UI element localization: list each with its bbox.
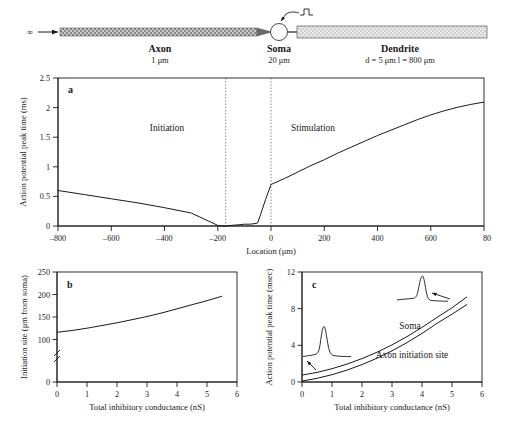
panel-a-x-axis: –800 –600 –400 –200 0 200 400 600 80 Loc… [49, 226, 491, 256]
panel-b-xlabel: Total inhibitory conductance (nS) [89, 402, 205, 412]
panel-c-ytick-12: 12 [287, 268, 295, 277]
panel-c-xtick-0: 0 [300, 390, 304, 399]
panel-a-xtick--800: –800 [49, 234, 66, 243]
axon-hillock-taper [257, 28, 272, 36]
electrode-arrow-icon [281, 12, 299, 21]
panel-c-ytick-0: 0 [291, 378, 295, 387]
panel-a-xtick--600: –600 [102, 234, 119, 243]
panel-c: c 12 8 4 0 Action potential peak time (m… [264, 268, 484, 412]
panel-c-inset-arrow-soma [432, 293, 450, 299]
panel-b-xtick-1: 1 [85, 390, 89, 399]
square-pulse-icon [300, 9, 313, 15]
panel-c-xtick-5: 5 [450, 390, 454, 399]
axon-diameter-label: 1 μm [151, 56, 169, 65]
panel-b-xtick-0: 0 [55, 390, 59, 399]
panel-c-xtick-3: 3 [390, 390, 394, 399]
panel-a-ytick-1.5: 1.5 [40, 133, 50, 142]
panel-b-ylabel: Initiation site (μm from soma) [19, 275, 29, 379]
panel-b-ytick-150: 150 [38, 313, 50, 322]
panel-b: b 250 200 150 100 0 Initiation site (μm … [19, 268, 239, 412]
panel-a-xtick-600: 600 [425, 234, 437, 243]
panel-a-xtick--200: –200 [209, 234, 226, 243]
panel-b-xtick-2: 2 [115, 390, 119, 399]
panel-b-ytick-100: 100 [38, 336, 50, 345]
panel-a-ytick-0: 0 [46, 222, 50, 231]
panel-a-letter: a [68, 84, 73, 95]
panel-c-plot-frame [302, 272, 482, 382]
panel-b-ytick-200: 200 [38, 291, 50, 300]
panel-c-label-axon-initiation-site: Axon initiation site [376, 350, 448, 360]
panel-b-curve [57, 296, 222, 332]
panel-c-letter: c [312, 279, 317, 290]
panel-c-xtick-4: 4 [420, 390, 424, 399]
dendrite-dimensions-label: d = 5 μm l = 800 μm [365, 56, 435, 65]
panel-a-xtick--400: –400 [155, 234, 172, 243]
panel-a-ytick-2.5: 2.5 [40, 74, 50, 83]
panel-b-letter: b [67, 279, 73, 290]
panel-c-label-soma: Soma [399, 321, 421, 331]
panel-a-annotation-stimulation: Stimulation [291, 123, 335, 133]
soma-label: Soma [267, 43, 291, 54]
panel-a-ytick-1: 1 [46, 163, 50, 172]
figure-svg: ∞ Axon 1 μm Soma 20 μm Dendrite d = 5 μm… [0, 0, 505, 429]
panel-c-inset-arrow-axon [307, 361, 316, 370]
infinity-symbol: ∞ [27, 28, 33, 37]
panel-c-x-axis: 0 1 2 3 4 5 6 Total inhibitory conductan… [300, 382, 484, 412]
panel-b-ytick-0: 0 [46, 378, 50, 387]
panel-b-y-axis: 250 200 150 100 0 Initiation site (μm fr… [19, 268, 60, 387]
panel-c-ytick-4: 4 [291, 341, 295, 350]
dendrite-label: Dendrite [381, 43, 419, 54]
panel-a-ytick-0.5: 0.5 [40, 192, 50, 201]
panel-c-inset-spike-trace-soma [397, 276, 450, 301]
panel-c-y-axis: 12 8 4 0 Action potential peak time (mse… [264, 268, 302, 387]
panel-b-xtick-3: 3 [145, 390, 149, 399]
figure-panel-container: ∞ Axon 1 μm Soma 20 μm Dendrite d = 5 μm… [0, 0, 505, 429]
panel-a-xtick-400: 400 [371, 234, 383, 243]
panel-a-y-axis: 2.5 2 1.5 1 0.5 0 Action potential peak … [18, 74, 58, 231]
axon-label: Axon [149, 43, 172, 54]
panel-c-inset-spike-trace-axon [303, 327, 351, 371]
soma-circle [271, 24, 288, 41]
panel-a: a 2.5 2 1.5 1 0.5 0 Action potential pea… [18, 74, 491, 256]
panel-a-xtick-200: 200 [318, 234, 330, 243]
panel-a-xtick-800: 80 [483, 234, 491, 243]
panel-c-xtick-6: 6 [480, 390, 484, 399]
dendrite-segment [297, 26, 487, 38]
axon-segment [60, 28, 257, 36]
panel-a-xlabel: Location (μm) [246, 246, 296, 256]
panel-a-xtick-0: 0 [269, 234, 273, 243]
panel-b-ytick-250: 250 [38, 268, 50, 277]
panel-c-ytick-8: 8 [291, 305, 295, 314]
panel-c-xtick-2: 2 [360, 390, 364, 399]
panel-b-x-axis: 0 1 2 3 4 5 6 Total inhibitory conductan… [55, 382, 239, 412]
panel-a-annotation-initiation: Initiation [150, 123, 185, 133]
panel-a-ytick-2: 2 [46, 104, 50, 113]
panel-c-ylabel: Action potential peak time (msec) [264, 268, 274, 385]
panel-b-plot-frame [57, 272, 237, 382]
panel-c-xtick-1: 1 [330, 390, 334, 399]
soma-diameter-label: 20 μm [268, 56, 290, 65]
panel-a-ylabel: Action potential peak time (ms) [18, 97, 28, 206]
panel-c-xlabel: Total inhibitory conductance (nS) [334, 402, 450, 412]
neuron-morphology-diagram: ∞ Axon 1 μm Soma 20 μm Dendrite d = 5 μm… [27, 9, 487, 65]
panel-b-xtick-6: 6 [235, 390, 239, 399]
panel-b-xtick-4: 4 [175, 390, 179, 399]
panel-b-xtick-5: 5 [205, 390, 209, 399]
